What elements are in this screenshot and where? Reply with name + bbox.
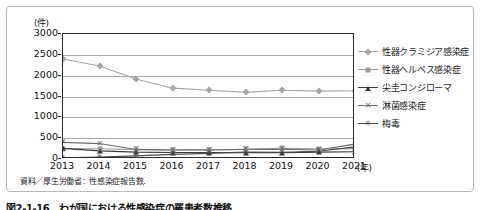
y-axis-tick-label: 2000: [24, 70, 58, 80]
data-point-marker: ✳: [205, 149, 214, 157]
legend-marker-icon: [358, 46, 378, 58]
chart-legend: 性器クラミジア感染症性器ヘルペス感染症尖圭コンジローマ✕淋菌感染症✳梅毒: [358, 44, 476, 134]
legend-marker-icon: [358, 64, 378, 76]
y-axis-tick-mark: [58, 75, 61, 76]
y-axis-tick-label: 2500: [24, 49, 58, 59]
data-point-marker: ✕: [63, 138, 68, 146]
y-axis-tick-mark: [58, 96, 61, 97]
legend-item[interactable]: ✕淋菌感染症: [358, 98, 476, 113]
legend-label: 尖圭コンジローマ: [382, 83, 452, 93]
y-axis-tick-labels: 050010001500200025003000: [22, 33, 58, 158]
data-point-marker: ✳: [241, 148, 250, 156]
figure-container: (件) 050010001500200025003000 ✕✕✕✕✕✕✕✕✕✳✳…: [0, 0, 482, 210]
data-point-marker: ✕: [95, 140, 104, 148]
x-axis-tick-label: 2014: [86, 161, 110, 171]
x-axis-tick-label: 2016: [159, 161, 183, 171]
legend-marker-icon: ✳: [358, 118, 378, 130]
data-point-marker: ✳: [314, 147, 323, 155]
x-axis-tick-label: 2018: [232, 161, 256, 171]
source-note: 資料／厚生労働省：性感染症報告数.: [20, 175, 145, 186]
legend-item[interactable]: 尖圭コンジローマ: [358, 80, 476, 95]
x-axis-tick-label: 2013: [50, 161, 74, 171]
series-lines-layer: [63, 34, 353, 157]
x-axis-tick-label: 2019: [269, 161, 293, 171]
data-point-marker: ✳: [95, 153, 104, 157]
legend-item[interactable]: 性器クラミジア感染症: [358, 44, 476, 59]
plot-inner: ✕✕✕✕✕✕✕✕✕✳✳✳✳✳✳✳✳✳: [63, 34, 353, 157]
x-axis-unit-label: (年): [357, 161, 372, 174]
y-axis-tick-mark: [58, 137, 61, 138]
data-point-marker: [63, 146, 66, 151]
legend-item[interactable]: 性器ヘルペス感染症: [358, 62, 476, 77]
y-axis-tick-label: 1500: [24, 91, 58, 101]
figure-caption: 図2-1-16 わが国における性感染症の罹患者数推移: [6, 200, 232, 210]
x-axis-tick-label: 2017: [196, 161, 220, 171]
y-axis-tick-label: 3000: [24, 28, 58, 38]
legend-marker-icon: [358, 82, 378, 94]
y-axis-tick-mark: [58, 116, 61, 117]
data-point-marker: ✳: [351, 143, 354, 151]
legend-label: 淋菌感染症: [382, 101, 426, 111]
legend-marker-icon: ✕: [358, 100, 378, 112]
x-axis-tick-label: 2020: [305, 161, 329, 171]
y-axis-tick-label: 1000: [24, 111, 58, 121]
legend-label: 梅毒: [382, 119, 399, 129]
y-axis-tick-label: 500: [24, 132, 58, 142]
y-axis-tick-mark: [58, 158, 61, 159]
data-point-marker: ✳: [168, 150, 177, 157]
legend-label: 性器ヘルペス感染症: [382, 65, 460, 75]
data-point-marker: ✳: [63, 154, 68, 157]
legend-label: 性器クラミジア感染症: [382, 47, 469, 57]
y-axis-tick-mark: [58, 54, 61, 55]
y-axis-tick-mark: [58, 33, 61, 34]
data-point-marker: ✳: [132, 152, 141, 157]
data-point-marker: ✳: [278, 148, 287, 156]
x-axis-tick-label: 2015: [123, 161, 147, 171]
plot-area: ✕✕✕✕✕✕✕✕✕✳✳✳✳✳✳✳✳✳: [62, 33, 354, 158]
legend-item[interactable]: ✳梅毒: [358, 116, 476, 131]
